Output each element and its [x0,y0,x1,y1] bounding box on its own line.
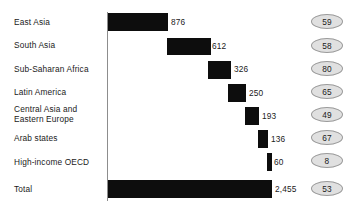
category-label-central-asia-line1: Central Asia and [14,104,77,114]
bar-east-asia [108,13,168,31]
waterfall-chart: East Asia 876 59 South Asia 612 58 Sub-S… [0,0,359,211]
bar-value-central-asia-eastern-europe: 193 [262,111,276,121]
category-label-sub-saharan-africa: Sub-Saharan Africa [14,64,89,74]
category-label-high-income-oecd: High-income OECD [14,157,89,167]
bar-total [108,180,272,198]
bar-value-high-income-oecd: 60 [274,157,284,167]
bar-value-east-asia: 876 [171,17,185,27]
bar-value-total: 2,455 [275,184,297,194]
category-label-east-asia: East Asia [14,17,50,27]
badge-central-asia-eastern-europe: 49 [311,107,343,122]
bar-central-asia-eastern-europe [245,107,259,125]
badge-latin-america: 65 [311,84,343,99]
bar-value-south-asia: 612 [212,41,226,51]
bar-arab-states [258,130,268,148]
bar-latin-america [228,84,246,102]
badge-east-asia: 59 [311,14,343,29]
bar-value-sub-saharan-africa: 326 [234,64,248,74]
category-label-total: Total [14,184,32,194]
badge-south-asia: 58 [311,38,343,53]
bar-south-asia [167,38,211,55]
badge-arab-states: 67 [311,130,343,145]
category-label-arab-states: Arab states [14,133,58,143]
bar-sub-saharan-africa [208,61,231,79]
badge-high-income-oecd: 8 [311,153,343,168]
badge-sub-saharan-africa: 80 [311,61,343,76]
chart-baseline-axis [107,12,108,201]
bar-value-latin-america: 250 [249,88,263,98]
bar-value-arab-states: 136 [271,134,285,144]
category-label-latin-america: Latin America [14,87,66,97]
category-label-central-asia-line2: Eastern Europe [14,114,74,124]
badge-total: 53 [311,181,343,196]
bar-high-income-oecd [267,153,272,171]
category-label-south-asia: South Asia [14,40,55,50]
